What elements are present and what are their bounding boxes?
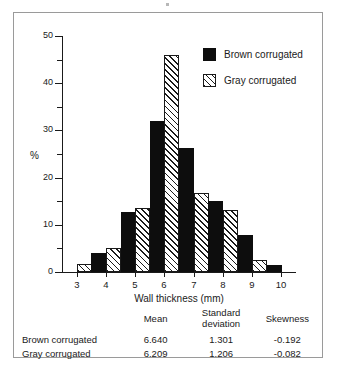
- y-axis-title: %: [30, 150, 39, 161]
- y-axis-line: [62, 36, 63, 272]
- y-tick-label-text: 20: [31, 173, 53, 182]
- y-tick-major: [55, 225, 62, 226]
- bar-gray-corrugated: [252, 260, 267, 272]
- y-tick-minor: [57, 60, 62, 61]
- x-tick: [106, 272, 107, 277]
- y-tick-label-text: 10: [31, 220, 53, 229]
- stats-row-sd-gray: 1.206: [182, 347, 261, 361]
- stats-row-skewness-brown: -0.192: [261, 333, 314, 347]
- y-tick-label: 10: [27, 220, 53, 230]
- y-tick-major: [55, 272, 62, 273]
- x-tick-label: 7: [184, 279, 204, 290]
- bar-brown-corrugated: [179, 148, 194, 272]
- legend-item-gray: Gray corrugated: [203, 74, 303, 87]
- x-tick: [164, 272, 165, 277]
- y-tick-label: 50: [27, 31, 53, 41]
- legend-label-gray: Gray corrugated: [224, 75, 296, 86]
- table-row: Brown corrugated 6.640 1.301 -0.192: [22, 333, 314, 347]
- legend: Brown corrugated Gray corrugated: [203, 48, 303, 100]
- bar-gray-corrugated: [194, 193, 209, 272]
- x-tick-label: 5: [125, 279, 145, 290]
- bar-brown-corrugated: [238, 235, 253, 272]
- bar-gray-corrugated: [135, 208, 150, 272]
- y-tick-minor: [57, 154, 62, 155]
- x-tick: [281, 272, 282, 277]
- y-tick-major: [55, 130, 62, 131]
- legend-swatch-gray-icon: [203, 74, 216, 87]
- chart-area: % Wall thickness (mm) 010203040503456789…: [0, 0, 337, 375]
- x-tick: [77, 272, 78, 277]
- stats-header-skewness: Skewness: [261, 306, 314, 333]
- stats-header-row: Mean Standard deviation Skewness: [22, 306, 314, 333]
- bar-gray-corrugated: [164, 55, 179, 272]
- y-tick-label: 30: [27, 125, 53, 135]
- bar-gray-corrugated: [223, 210, 238, 272]
- bar-brown-corrugated: [91, 253, 106, 272]
- y-tick-label: 0: [27, 267, 53, 277]
- y-tick-label-text: 40: [31, 78, 53, 87]
- stats-row-sd-brown: 1.301: [182, 333, 261, 347]
- x-tick-label: 8: [213, 279, 233, 290]
- x-tick-label: 4: [96, 279, 116, 290]
- y-tick-label-text: 50: [31, 31, 53, 40]
- legend-swatch-brown-icon: [203, 48, 216, 61]
- bar-brown-corrugated: [267, 265, 282, 272]
- legend-label-brown: Brown corrugated: [224, 49, 303, 60]
- y-tick-major: [55, 83, 62, 84]
- y-tick-label: 40: [27, 78, 53, 88]
- x-tick: [194, 272, 195, 277]
- y-tick-minor: [57, 201, 62, 202]
- y-tick-minor: [57, 248, 62, 249]
- bar-brown-corrugated: [208, 201, 223, 272]
- stats-row-name-brown: Brown corrugated: [22, 333, 130, 347]
- x-tick-label: 9: [242, 279, 262, 290]
- legend-item-brown: Brown corrugated: [203, 48, 303, 61]
- stats-header-sd: Standard deviation: [182, 306, 261, 333]
- stats-table: Mean Standard deviation Skewness Brown c…: [22, 306, 314, 361]
- bar-gray-corrugated: [106, 248, 121, 272]
- y-tick-major: [55, 178, 62, 179]
- stats-row-mean-gray: 6.209: [130, 347, 182, 361]
- bar-gray-corrugated: [77, 264, 92, 272]
- table-row: Gray corrugated 6.209 1.206 -0.082: [22, 347, 314, 361]
- x-tick-label: 6: [154, 279, 174, 290]
- y-tick-major: [55, 36, 62, 37]
- stats-row-skewness-gray: -0.082: [261, 347, 314, 361]
- x-tick: [223, 272, 224, 277]
- bar-brown-corrugated: [150, 121, 165, 272]
- y-tick-minor: [57, 107, 62, 108]
- y-tick-label-text: 30: [31, 125, 53, 134]
- x-tick: [252, 272, 253, 277]
- x-tick-label: 3: [67, 279, 87, 290]
- y-tick-label: 20: [27, 173, 53, 183]
- stats-header-blank: [22, 306, 130, 333]
- stats-header-mean: Mean: [130, 306, 182, 333]
- x-tick: [135, 272, 136, 277]
- y-tick-label-text: 0: [31, 267, 53, 276]
- x-tick-label: 10: [271, 279, 291, 290]
- stats-row-mean-brown: 6.640: [130, 333, 182, 347]
- bar-brown-corrugated: [121, 212, 136, 272]
- x-axis-title: Wall thickness (mm): [62, 293, 296, 304]
- stats-row-name-gray: Gray corrugated: [22, 347, 130, 361]
- x-axis-line: [62, 272, 296, 273]
